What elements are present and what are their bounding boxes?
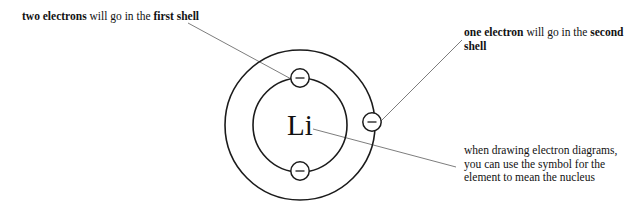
annotation-first-shell-bold-lead: two electrons <box>22 10 87 22</box>
annotation-nucleus-note: when drawing electron diagrams, you can … <box>464 144 629 185</box>
leader-line-nucleus-note <box>313 129 456 167</box>
electron-second-shell-right <box>363 113 381 131</box>
electron-shell-diagram-page: Li two electrons will go in the first sh… <box>0 0 633 216</box>
annotation-second-shell: one electron will go in the second shell <box>464 26 624 53</box>
electron-first-shell-bottom <box>291 162 309 180</box>
annotation-first-shell-bold-tail: first shell <box>153 10 199 22</box>
annotation-first-shell: two electrons will go in the first shell <box>22 10 222 24</box>
leader-line-first-shell <box>188 23 293 80</box>
leader-line-second-shell <box>381 40 462 121</box>
electron-first-shell-top <box>291 69 309 87</box>
annotation-first-shell-rest: will go in the <box>87 10 154 22</box>
annotation-second-shell-bold-lead: one electron <box>464 26 524 38</box>
nucleus-element-symbol: Li <box>287 109 313 141</box>
annotation-second-shell-rest: will go in the <box>524 26 591 38</box>
